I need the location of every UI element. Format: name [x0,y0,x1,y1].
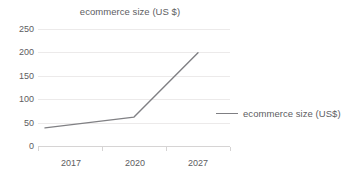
x-tick-label: 2020 [112,159,158,168]
x-tick-label: 2027 [175,159,221,168]
line-chart: ecommerce size (US $) 250 200 150 100 50… [0,0,353,177]
x-tick-label: 2017 [48,159,94,168]
chart-legend: ecommerce size (US$) [216,108,341,119]
legend-entry-label: ecommerce size (US$) [243,108,341,119]
x-axis-tick-labels: 2017 2020 2027 [0,0,353,177]
legend-line-marker-icon [216,113,238,114]
